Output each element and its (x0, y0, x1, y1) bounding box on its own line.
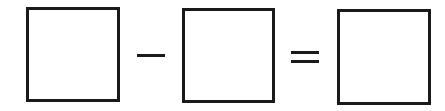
equals-sign (291, 51, 319, 65)
result-box[interactable] (337, 9, 431, 105)
minuend-box[interactable] (26, 7, 120, 102)
subtrahend-box[interactable] (182, 8, 275, 103)
minus-sign (137, 54, 165, 58)
